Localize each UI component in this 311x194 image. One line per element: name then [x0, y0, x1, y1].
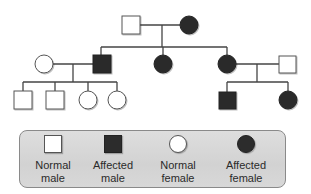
legend-label: Normal male	[35, 159, 70, 184]
affected-female-icon	[218, 55, 236, 73]
affected-male-icon	[104, 135, 122, 153]
affected-female-icon	[279, 91, 297, 109]
legend-item-normal-female: Normal female	[143, 131, 213, 189]
normal-male-icon	[122, 16, 140, 34]
pedigree-diagram: Normal male Affected male Normal female …	[0, 0, 311, 194]
affected-female-icon	[180, 16, 198, 34]
affected-male-icon	[219, 92, 236, 109]
legend-item-affected-male: Affected male	[78, 131, 148, 189]
normal-male-icon	[14, 91, 32, 109]
legend-item-affected-female: Affected female	[211, 131, 281, 189]
affected-female-icon	[154, 55, 172, 73]
affected-female-icon	[237, 135, 255, 153]
normal-female-icon	[108, 91, 126, 109]
legend-label: Normal female	[160, 159, 195, 184]
normal-male-icon	[46, 91, 64, 109]
legend-label: Affected male	[93, 159, 133, 184]
normal-female-icon	[79, 91, 97, 109]
affected-male-icon	[93, 55, 111, 73]
normal-female-icon	[35, 55, 53, 73]
legend: Normal male Affected male Normal female …	[19, 130, 286, 188]
legend-label: Affected female	[226, 159, 266, 184]
normal-female-icon	[169, 135, 187, 153]
normal-male-icon	[44, 135, 62, 153]
normal-male-icon	[279, 56, 296, 73]
